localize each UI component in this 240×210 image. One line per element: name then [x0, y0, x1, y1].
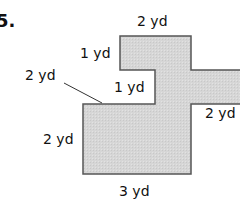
label-upper-left-vertical: 1 yd [80, 46, 111, 60]
composite-figure [0, 0, 240, 210]
label-inner-horizontal: 1 yd [114, 80, 145, 94]
label-leader: 2 yd [25, 68, 56, 82]
leader-line [64, 83, 102, 103]
label-top: 2 yd [137, 14, 168, 28]
label-left-vertical: 2 yd [43, 132, 74, 146]
label-right-arm: 2 yd [205, 106, 236, 120]
label-bottom: 3 yd [119, 184, 150, 198]
